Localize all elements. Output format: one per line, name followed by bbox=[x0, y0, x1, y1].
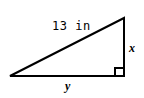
vertical-leg-label: x bbox=[129, 42, 135, 54]
right-triangle-drawing bbox=[0, 0, 144, 98]
horizontal-leg-label: y bbox=[65, 80, 70, 92]
right-angle-marker-icon bbox=[115, 68, 123, 76]
triangle-figure-canvas: 13 in x y bbox=[0, 0, 144, 98]
hypotenuse-length-label: 13 in bbox=[52, 20, 91, 32]
